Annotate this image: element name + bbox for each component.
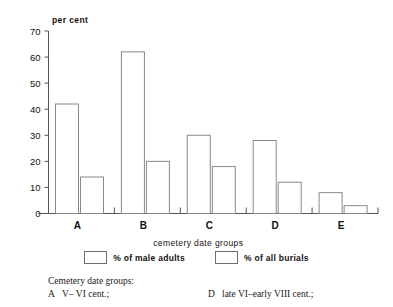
legend-swatch-icon	[215, 251, 238, 264]
x-tick-label: C	[206, 220, 213, 231]
x-tick-label: D	[272, 220, 279, 231]
note-key: A	[48, 289, 62, 301]
legend-swatch-icon	[84, 251, 107, 264]
notes-entry-a: A V– VI cent.;	[48, 289, 208, 301]
bar-all-burials	[212, 167, 235, 214]
y-tick-label: 70	[30, 26, 41, 37]
bar-chart-svg: 010203040506070 per cent ABCDE cemetery …	[0, 0, 393, 250]
bar-male-adults	[253, 141, 276, 214]
y-tick-label: 40	[30, 104, 41, 115]
y-axis-title: per cent	[52, 15, 88, 25]
chart-figure: 010203040506070 per cent ABCDE cemetery …	[0, 0, 393, 307]
legend-item-male-adults: % of male adults	[84, 251, 185, 264]
bar-male-adults	[319, 193, 342, 214]
y-tick-label: 30	[30, 130, 41, 141]
legend-item-all-burials: % of all burials	[215, 251, 309, 264]
y-tick-label: 50	[30, 78, 41, 89]
note-key: D	[208, 289, 222, 301]
bar-all-burials	[146, 161, 169, 213]
bar-male-adults	[187, 135, 210, 213]
note-value: late VI–early VIII cent.;	[222, 289, 313, 301]
x-tick-label: B	[140, 220, 147, 231]
x-tick-label: A	[74, 220, 81, 231]
x-axis-title: cemetery date groups	[153, 238, 243, 248]
bar-male-adults	[121, 52, 144, 214]
x-tick-labels: ABCDE	[74, 220, 345, 231]
y-tick-labels: 010203040506070	[30, 26, 41, 220]
figure-notes: Cemetery date groups: A V– VI cent.; D l…	[48, 276, 388, 301]
bar-all-burials	[81, 177, 104, 214]
x-tick-label: E	[338, 220, 345, 231]
notes-entry-d: D late VI–early VIII cent.;	[208, 289, 368, 301]
bar-male-adults	[56, 104, 79, 214]
y-tick-label: 20	[30, 156, 41, 167]
chart-legend: % of male adults % of all burials	[0, 251, 393, 264]
y-tick-label: 60	[30, 52, 41, 63]
y-tick-label: 10	[30, 182, 41, 193]
legend-label: % of all burials	[244, 253, 309, 263]
notes-title: Cemetery date groups:	[48, 276, 388, 288]
notes-row: A V– VI cent.; D late VI–early VIII cent…	[48, 289, 388, 301]
bar-all-burials	[344, 206, 367, 214]
bar-all-burials	[278, 182, 301, 213]
bars-group	[56, 52, 368, 214]
legend-label: % of male adults	[113, 253, 185, 263]
note-value: V– VI cent.;	[62, 289, 109, 301]
y-tick-marks	[45, 31, 49, 214]
